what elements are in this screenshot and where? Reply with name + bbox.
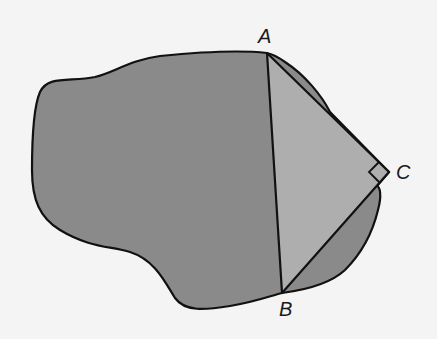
lake-diagram [0, 0, 437, 339]
point-label-a: A [258, 26, 271, 46]
point-label-b: B [279, 299, 292, 319]
geometry-figure: A B C [0, 0, 437, 339]
point-label-c: C [396, 162, 410, 182]
